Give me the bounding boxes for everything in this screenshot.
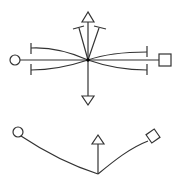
diagram-canvas <box>0 0 182 190</box>
hub-dot-icon <box>86 58 90 62</box>
tick-upper-right-icon <box>94 26 106 29</box>
triangle-down-icon <box>82 96 94 105</box>
triangle-up-icon <box>82 12 94 22</box>
triangle-up-icon <box>92 135 104 144</box>
edge-hub-to-left-lower-tbar <box>31 60 88 70</box>
edge-vertex-to-right-square <box>98 141 148 174</box>
edge-hub-to-right-upper-tbar <box>88 52 147 60</box>
circle-node-icon <box>13 127 23 137</box>
square-node-icon <box>159 54 171 66</box>
top-star-diagram <box>10 12 171 105</box>
edge-hub-to-right-lower-tbar <box>88 60 147 70</box>
bottom-path-diagram <box>13 127 160 174</box>
edge-hub-to-upper-left-tick <box>79 28 88 60</box>
edge-hub-to-left-upper-tbar <box>31 48 88 60</box>
diamond-square-node-icon <box>146 129 160 143</box>
tick-upper-left-icon <box>73 26 84 29</box>
edge-left-circle-to-vertex <box>21 136 98 174</box>
edge-hub-to-upper-right-tick <box>88 28 99 60</box>
circle-node-icon <box>10 55 20 65</box>
